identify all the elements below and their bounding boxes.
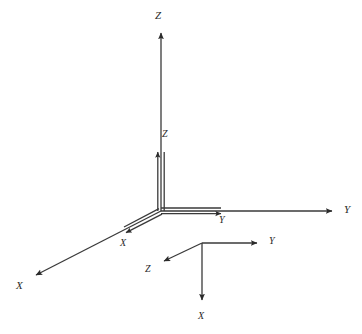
coordinate-systems-diagram: Z Y X Z Y X Y Z X xyxy=(0,0,362,334)
inner-x-axis-label: X xyxy=(120,238,126,248)
outer-coordinate-system xyxy=(36,33,332,275)
inner-y-axis-label: Y xyxy=(219,215,225,225)
inner-coordinate-system xyxy=(124,152,221,233)
lower-z-axis-line xyxy=(164,243,202,261)
lower-x-axis-label: X xyxy=(198,311,204,321)
outer-x-axis-label: X xyxy=(16,280,23,291)
outer-z-axis-label: Z xyxy=(155,10,161,21)
lower-y-axis-label: Y xyxy=(269,236,275,246)
lower-z-axis-label: Z xyxy=(145,264,151,274)
outer-x-axis-line xyxy=(36,211,161,275)
lower-coordinate-system xyxy=(164,243,257,300)
outer-y-axis-label: Y xyxy=(344,204,350,215)
axes-vector-graphic xyxy=(0,0,362,334)
inner-z-axis-label: Z xyxy=(162,129,168,139)
